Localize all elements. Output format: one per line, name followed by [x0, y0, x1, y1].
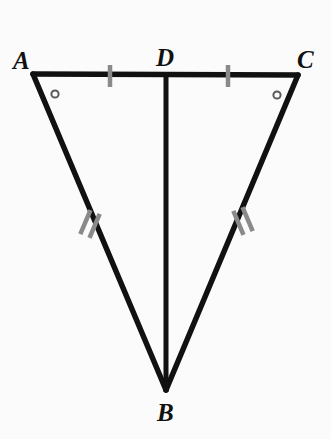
geometry-figure: A D C B: [0, 0, 331, 439]
vertex-label-d: D: [156, 45, 174, 70]
vertex-label-c: C: [297, 47, 314, 72]
vertex-label-a: A: [13, 48, 30, 73]
vertex-label-b: B: [157, 400, 174, 425]
